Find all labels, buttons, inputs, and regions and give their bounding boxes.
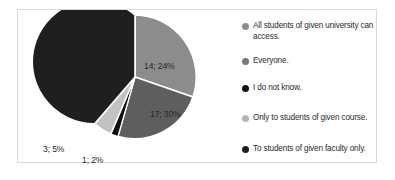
legend-item-label: Everyone. <box>253 56 289 67</box>
legend-item-everyone[interactable]: Everyone. <box>242 56 374 67</box>
legend-swatch-icon <box>242 146 249 153</box>
legend-item-all-students-university[interactable]: All students of given university can acc… <box>242 21 374 42</box>
pie-plot-area: 14; 24% 17; 30% 3; 5% 1; 2% <box>18 10 240 162</box>
legend-item-label: To students of given faculty only. <box>253 144 366 155</box>
legend-swatch-icon <box>242 58 249 65</box>
pie-label-everyone: 17; 30% <box>150 109 181 119</box>
legend-swatch-icon <box>242 85 249 92</box>
legend-item-only-students-course[interactable]: Only to students of given course. <box>242 113 374 124</box>
pie-label-i-do-not-know: 1; 2% <box>82 155 103 165</box>
legend-item-label: All students of given university can acc… <box>253 21 374 42</box>
chart-legend: All students of given university can acc… <box>242 15 376 162</box>
pie-label-all-students-university: 14; 24% <box>144 61 175 71</box>
pie-chart-card: 14; 24% 17; 30% 3; 5% 1; 2% All students… <box>17 9 377 163</box>
pie-chart-graphic <box>18 10 240 162</box>
legend-swatch-icon <box>242 23 249 30</box>
legend-swatch-icon <box>242 115 249 122</box>
legend-item-i-do-not-know[interactable]: I do not know. <box>242 83 374 94</box>
legend-item-label: Only to students of given course. <box>253 113 367 124</box>
legend-item-students-faculty-only[interactable]: To students of given faculty only. <box>242 144 374 155</box>
legend-item-label: I do not know. <box>253 83 301 94</box>
pie-label-only-students-course: 3; 5% <box>43 144 64 154</box>
